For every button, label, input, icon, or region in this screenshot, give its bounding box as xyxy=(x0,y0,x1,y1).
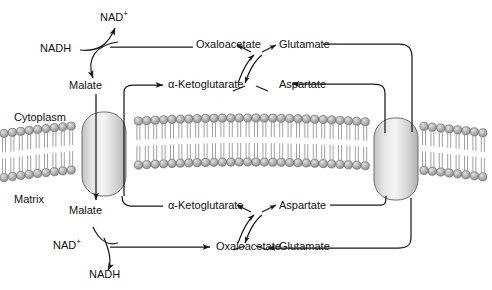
label-nad-plus-cytoplasm: NAD+ xyxy=(100,12,128,23)
label-oxaloacetate-cytoplasm: Oxaloacetate xyxy=(196,39,261,50)
arrow-cross-to-aspartate-bottom xyxy=(262,205,276,212)
arrow-bottom-cross-a xyxy=(245,215,262,243)
label-malate-cytoplasm: Malate xyxy=(69,80,102,91)
arrow-asp-stub xyxy=(256,86,268,91)
label-malate-matrix: Malate xyxy=(69,205,102,216)
label-oxaloacetate-matrix: Oxaloacetate xyxy=(216,241,281,252)
arrow-cross-to-glutamate xyxy=(262,45,276,52)
label-glutamate-cytoplasm: Glutamate xyxy=(279,39,330,50)
label-aspartate-matrix: Aspartate xyxy=(279,200,326,211)
label-matrix: Matrix xyxy=(14,194,44,205)
label-nadh-cytoplasm: NADH xyxy=(40,43,71,54)
arrow-akg-out-to-cytoplasm xyxy=(124,85,163,196)
label-cytoplasm: Cytoplasm xyxy=(14,112,66,123)
label-alpha-ketoglutarate-cytoplasm: α-Ketoglutarate xyxy=(168,79,243,90)
label-alpha-ketoglutarate-matrix: α-Ketoglutarate xyxy=(168,200,243,211)
label-glutamate-matrix: Glutamate xyxy=(279,241,330,252)
label-aspartate-cytoplasm: Aspartate xyxy=(279,79,326,90)
label-nadh-matrix: NADH xyxy=(89,269,120,280)
arrow-akg-into-transporter xyxy=(122,196,163,206)
arrow-glu-to-akg-cross xyxy=(245,55,262,83)
malate-alpha-ketoglutarate-transporter xyxy=(82,112,126,196)
arrow-nadh-to-nadplus xyxy=(80,28,115,50)
malate-aspartate-shuttle-diagram: NAD+ NADH Malate Oxaloacetate α-Ketoglut… xyxy=(0,0,492,290)
arrow-aspartate-into-transporter xyxy=(330,196,386,205)
label-nad-plus-matrix: NAD+ xyxy=(53,240,81,251)
